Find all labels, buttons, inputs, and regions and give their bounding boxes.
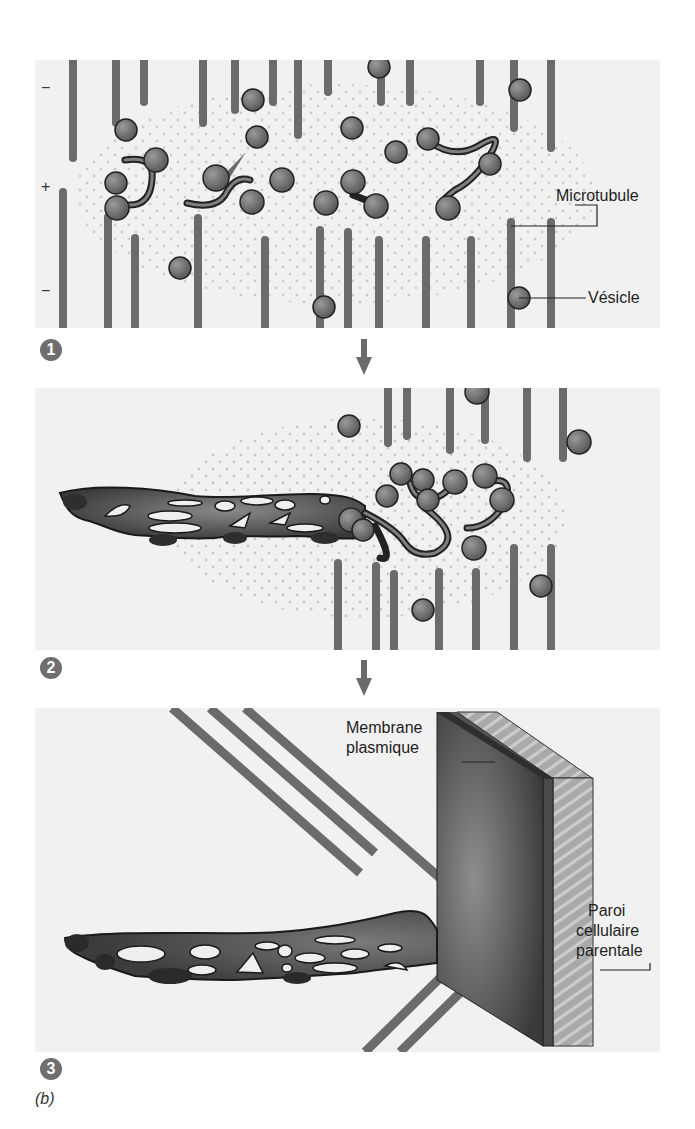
- step-badge-1: 1: [40, 339, 62, 361]
- wall-label-line3: parentale: [576, 941, 643, 960]
- panel-step-2: [35, 388, 660, 650]
- wall-label-line1: Paroi: [588, 901, 625, 920]
- phragmoplast-forming-illustration: [35, 388, 660, 650]
- down-arrow-icon: [356, 339, 372, 375]
- step-badge-2: 2: [40, 657, 62, 679]
- microtubules-diagonal: [172, 708, 475, 1052]
- membrane-label-line1: Membrane: [346, 718, 422, 737]
- phragmoplast-end: [63, 494, 87, 510]
- membrane-label-line2: plasmique: [346, 738, 419, 757]
- minus-end-bottom-label: −: [41, 283, 50, 299]
- figure-caption: (b): [35, 1090, 55, 1108]
- microtubule-label: Microtubule: [556, 186, 639, 205]
- wall-label-line2: cellulaire: [576, 921, 639, 940]
- plus-end-label: +: [41, 179, 50, 195]
- parental-cell-wall: [553, 778, 593, 1046]
- panel-step-3: Membrane plasmique Paroi cellulaire pare…: [35, 708, 660, 1052]
- vesicle-label: Vésicle: [588, 288, 640, 307]
- panel-step-1: − + − Microtubule Vésicle: [35, 60, 660, 328]
- step-badge-3: 3: [40, 1058, 62, 1080]
- minus-end-top-label: −: [41, 80, 50, 96]
- down-arrow-icon: [356, 660, 372, 696]
- cell-plate-fusion-illustration: [35, 708, 660, 1052]
